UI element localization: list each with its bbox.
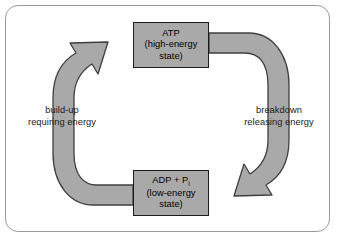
label-breakdown-line1: breakdown	[227, 105, 331, 117]
figure-root: ATP (high-energy state) ADP + Pi (low-en…	[0, 0, 338, 242]
label-breakdown: breakdown releasing energy	[227, 105, 331, 128]
label-buildup: build-up requiring energy	[10, 105, 114, 128]
node-adp-line3: state)	[159, 199, 183, 210]
node-adp-subscript: i	[188, 180, 190, 187]
label-buildup-line2: requiring energy	[10, 117, 114, 129]
label-buildup-line1: build-up	[10, 105, 114, 117]
node-adp-box: ADP + Pi (low-energy state)	[133, 170, 209, 216]
node-adp-formula: ADP + P	[152, 175, 188, 185]
node-adp-line1: ADP + Pi	[152, 175, 190, 188]
node-atp-line3: state)	[159, 51, 183, 62]
node-atp-box: ATP (high-energy state)	[133, 22, 209, 68]
label-breakdown-line2: releasing energy	[227, 117, 331, 129]
node-atp-line2: (high-energy	[145, 39, 198, 50]
node-adp-line2: (low-energy	[146, 188, 195, 199]
node-atp-line1: ATP	[162, 28, 180, 39]
